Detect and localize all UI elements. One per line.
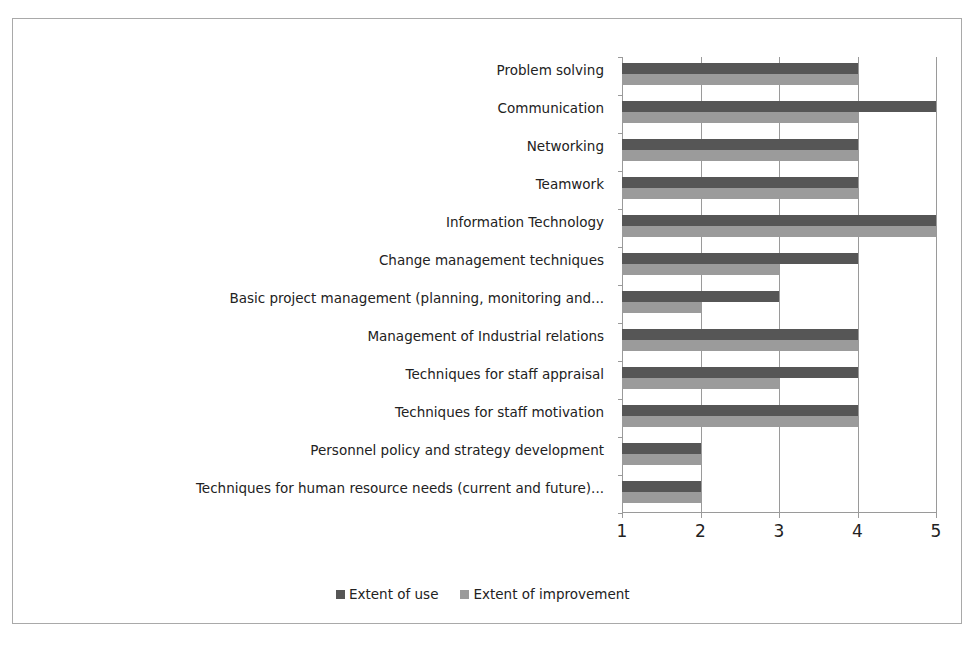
x-tick-label: 2 (695, 521, 706, 541)
bar-extent-of-use (622, 481, 701, 492)
y-tick (618, 513, 622, 514)
legend: Extent of use Extent of improvement (336, 586, 652, 602)
bar-extent-of-use (622, 291, 779, 302)
y-tick (618, 247, 622, 248)
bar-extent-of-improvement (622, 264, 779, 275)
y-tick (618, 399, 622, 400)
category-label: Personnel policy and strategy developmen… (310, 442, 604, 458)
gridline-x-3 (779, 57, 780, 513)
y-tick (618, 95, 622, 96)
bar-extent-of-use (622, 63, 858, 74)
legend-label-improvement: Extent of improvement (473, 586, 629, 602)
bar-extent-of-use (622, 405, 858, 416)
bar-extent-of-improvement (622, 492, 701, 503)
bar-extent-of-use (622, 101, 936, 112)
gridline-x-5 (936, 57, 937, 513)
y-tick (618, 171, 622, 172)
bar-extent-of-improvement (622, 74, 858, 85)
x-tick (622, 513, 623, 518)
bar-extent-of-improvement (622, 112, 858, 123)
legend-item-use: Extent of use (336, 586, 438, 602)
bar-extent-of-improvement (622, 416, 858, 427)
category-label: Communication (498, 100, 604, 116)
x-tick (701, 513, 702, 518)
x-tick-label: 1 (617, 521, 628, 541)
bar-extent-of-use (622, 139, 858, 150)
bar-extent-of-use (622, 177, 858, 188)
y-tick (618, 133, 622, 134)
bar-extent-of-use (622, 253, 858, 264)
legend-swatch-use (336, 590, 345, 599)
y-tick (618, 475, 622, 476)
category-label: Techniques for staff appraisal (406, 366, 604, 382)
category-label: Change management techniques (379, 252, 604, 268)
legend-label-use: Extent of use (349, 586, 438, 602)
bar-extent-of-improvement (622, 188, 858, 199)
bar-extent-of-use (622, 215, 936, 226)
y-tick (618, 209, 622, 210)
x-tick-label: 5 (931, 521, 942, 541)
category-label: Teamwork (536, 176, 604, 192)
bar-extent-of-use (622, 367, 858, 378)
plot-area (622, 57, 936, 513)
bar-extent-of-improvement (622, 150, 858, 161)
category-label: Information Technology (446, 214, 604, 230)
bar-extent-of-improvement (622, 454, 701, 465)
x-tick-label: 3 (774, 521, 785, 541)
y-tick (618, 323, 622, 324)
category-label: Basic project management (planning, moni… (229, 290, 604, 306)
y-tick (618, 57, 622, 58)
gridline-x-2 (701, 57, 702, 513)
x-tick (936, 513, 937, 518)
y-tick (618, 437, 622, 438)
category-label: Management of Industrial relations (367, 328, 604, 344)
bar-extent-of-use (622, 443, 701, 454)
x-tick (858, 513, 859, 518)
category-label: Techniques for staff motivation (395, 404, 604, 420)
bar-extent-of-improvement (622, 340, 858, 351)
category-label: Techniques for human resource needs (cur… (196, 480, 604, 496)
bar-extent-of-improvement (622, 378, 779, 389)
gridline-x-4 (858, 57, 859, 513)
bar-extent-of-use (622, 329, 858, 340)
x-tick (779, 513, 780, 518)
category-label: Problem solving (497, 62, 604, 78)
y-tick (618, 285, 622, 286)
y-tick (618, 361, 622, 362)
bar-extent-of-improvement (622, 226, 936, 237)
bar-extent-of-improvement (622, 302, 701, 313)
legend-swatch-improvement (460, 590, 469, 599)
category-label: Networking (527, 138, 604, 154)
x-tick-label: 4 (852, 521, 863, 541)
legend-item-improvement: Extent of improvement (460, 586, 629, 602)
